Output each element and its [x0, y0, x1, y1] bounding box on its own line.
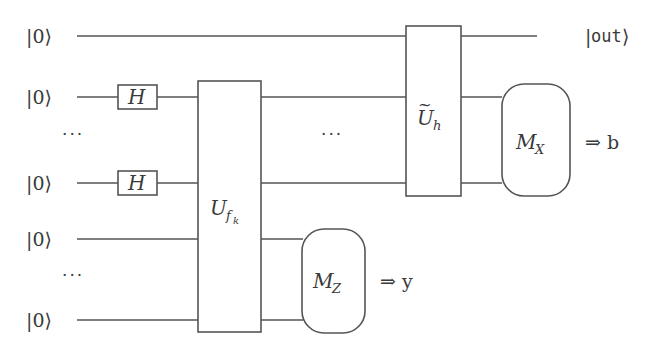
- out-ket-text: out: [591, 26, 622, 46]
- input-dots-1: ···: [62, 124, 84, 144]
- input-ket-1: |0⟩: [26, 86, 52, 109]
- ufk-subsub: k: [233, 215, 239, 226]
- oracle-gate-ufk: U f k: [198, 81, 261, 332]
- hadamard-gate-1: H: [118, 85, 157, 109]
- unitary-gate-uh: ~ U h: [406, 26, 461, 196]
- mz-label: M: [312, 269, 334, 293]
- output-out-ket: | out ⟩: [585, 25, 629, 48]
- measurement-mz: M Z: [302, 229, 365, 333]
- input-labels: |0⟩ |0⟩ ··· |0⟩ |0⟩ ··· |0⟩: [26, 25, 84, 332]
- mz-sub: Z: [331, 281, 342, 296]
- mx-result: ⇒ b: [585, 131, 619, 153]
- hadamard-gate-2: H: [118, 171, 157, 195]
- input-ket-4: |0⟩: [26, 309, 52, 332]
- mx-label: M: [515, 130, 537, 154]
- hadamard-label-1: H: [127, 85, 146, 109]
- measurement-mx: M X: [502, 84, 570, 196]
- input-dots-2: ···: [62, 265, 84, 285]
- mx-sub: X: [534, 142, 545, 157]
- hadamard-label-2: H: [127, 171, 146, 195]
- input-ket-2: |0⟩: [26, 172, 52, 195]
- input-ket-0: |0⟩: [26, 25, 52, 48]
- uh-sub: h: [433, 118, 441, 133]
- input-ket-3: |0⟩: [26, 228, 52, 251]
- mz-result: ⇒ y: [380, 270, 413, 292]
- middle-dots: ···: [321, 124, 343, 144]
- quantum-circuit-diagram: |0⟩ |0⟩ ··· |0⟩ |0⟩ ··· |0⟩ H H U f k ··…: [0, 0, 665, 358]
- out-ket-close: ⟩: [622, 25, 629, 47]
